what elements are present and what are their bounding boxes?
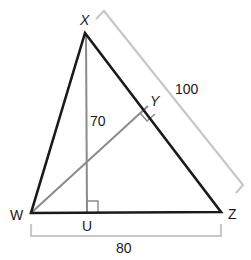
bracket-wz xyxy=(31,224,221,236)
altitude-xu xyxy=(86,34,87,213)
vertex-label-z: Z xyxy=(228,206,237,222)
triangle-diagram: X W Z U Y 100 70 80 xyxy=(0,0,251,260)
right-angle-marker-u xyxy=(87,201,98,213)
vertex-label-y: Y xyxy=(150,93,161,109)
vertex-label-w: W xyxy=(10,207,24,223)
diagram-svg: X W Z U Y 100 70 80 xyxy=(0,0,251,260)
measure-label-xu: 70 xyxy=(90,113,106,129)
measure-label-wz: 80 xyxy=(116,240,132,256)
vertex-label-u: U xyxy=(82,218,92,234)
measure-label-xz: 100 xyxy=(175,81,199,97)
bracket-xz xyxy=(96,11,243,193)
vertex-label-x: X xyxy=(79,12,90,28)
